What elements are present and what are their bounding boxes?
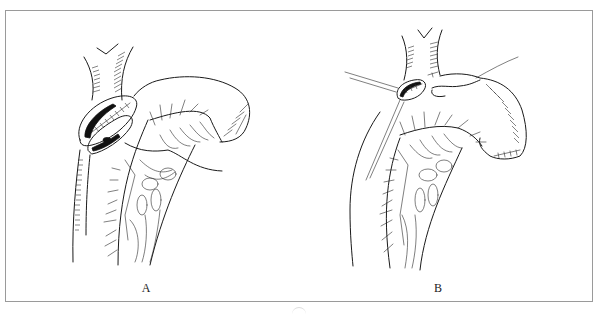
panel-b-mesentery <box>380 112 486 270</box>
panel-a-mesentery <box>104 100 222 265</box>
panel-a-esophagus <box>84 44 133 100</box>
figure-illustration <box>0 0 598 315</box>
panel-a-lower-tube <box>73 150 90 262</box>
panel-a-bowel-loop <box>125 77 250 171</box>
panel-b-bowel-loop <box>432 57 527 159</box>
panel-b-outer-contour <box>350 112 380 266</box>
panel-b-esophagus <box>402 28 442 80</box>
panel-a-anastomosis <box>79 96 137 154</box>
panel-b-label: B <box>428 281 448 296</box>
panel-a-label: A <box>136 281 156 296</box>
panel-a-drawing <box>73 44 250 265</box>
page-fragment-mark <box>292 307 306 315</box>
panel-b-drawing <box>345 28 526 270</box>
panel-b-anastomosis <box>345 72 438 180</box>
